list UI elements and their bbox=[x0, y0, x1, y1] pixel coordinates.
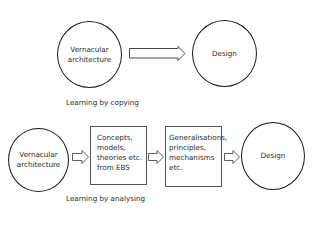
node-text: Design bbox=[261, 151, 286, 161]
box-text-line: theories etc. bbox=[97, 153, 146, 163]
vernacular-architecture-node-bottom: Vernacular architecture bbox=[8, 128, 69, 192]
box-text-line: Concepts, bbox=[97, 133, 146, 143]
box-text-line: mechanisms bbox=[169, 153, 221, 163]
node-text-line: architecture bbox=[68, 55, 112, 65]
box-text-line: models, bbox=[97, 143, 146, 153]
generalisations-box: Generalisations, principles, mechanisms … bbox=[165, 126, 222, 187]
arrow-right-icon bbox=[72, 150, 89, 164]
arrow-right-icon bbox=[129, 46, 186, 61]
design-node-bottom: Design bbox=[241, 122, 305, 190]
box-text-line: from EBS bbox=[97, 163, 146, 173]
caption-learning-by-copying: Learning by copying bbox=[66, 98, 139, 107]
node-text: Design bbox=[212, 49, 237, 59]
box-text-line: Generalisations, bbox=[169, 133, 221, 143]
caption-learning-by-analysing: Learning by analysing bbox=[66, 194, 145, 203]
concepts-box: Concepts, models, theories etc. from EBS bbox=[90, 126, 147, 185]
box-text-line: principles, bbox=[169, 143, 221, 153]
design-node-top: Design bbox=[192, 20, 257, 87]
node-text-line: architecture bbox=[17, 160, 61, 170]
arrow-right-icon bbox=[224, 150, 240, 164]
node-text-line: Vernacular bbox=[68, 45, 112, 55]
vernacular-architecture-node-top: Vernacular architecture bbox=[57, 21, 122, 88]
node-text-line: Vernacular bbox=[17, 150, 61, 160]
arrow-right-icon bbox=[148, 150, 164, 164]
box-text-line: etc. bbox=[169, 163, 221, 173]
